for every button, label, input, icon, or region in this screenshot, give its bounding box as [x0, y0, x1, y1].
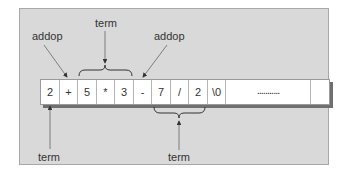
brace-bottom [154, 107, 205, 118]
arrow-addop-left [44, 45, 67, 77]
brace-top [79, 65, 132, 76]
arrows-and-braces [0, 0, 360, 182]
arrow-addop-right [143, 45, 167, 77]
